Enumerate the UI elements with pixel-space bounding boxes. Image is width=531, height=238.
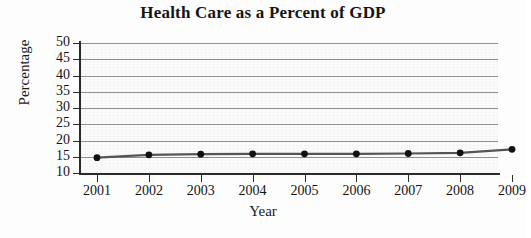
data-point [249, 150, 256, 157]
x-tick-label: 2002 [126, 183, 172, 199]
y-tick [73, 92, 80, 93]
x-tick-label: 2006 [333, 183, 379, 199]
x-tick-label: 2008 [437, 183, 483, 199]
data-point [94, 154, 101, 161]
y-axis-title: Percentage [16, 18, 33, 128]
data-point [509, 146, 516, 153]
x-tick [253, 175, 254, 182]
y-tick-label: 15 [44, 148, 70, 164]
data-point [457, 149, 464, 156]
x-tick [305, 175, 306, 182]
data-point [145, 151, 152, 158]
y-tick [73, 108, 80, 109]
x-tick [460, 175, 461, 182]
y-tick [73, 43, 80, 44]
data-point [197, 151, 204, 158]
data-point [353, 150, 360, 157]
x-tick [201, 175, 202, 182]
y-tick [73, 76, 80, 77]
y-tick [73, 59, 80, 60]
data-point [301, 150, 308, 157]
x-tick-label: 2003 [178, 183, 224, 199]
x-tick [97, 175, 98, 182]
x-tick [512, 175, 513, 182]
y-tick [73, 173, 80, 174]
y-tick-label: 35 [44, 83, 70, 99]
x-tick [356, 175, 357, 182]
y-tick-label: 50 [44, 34, 70, 50]
data-series [81, 43, 498, 173]
y-tick-label: 25 [44, 115, 70, 131]
y-tick [73, 141, 80, 142]
data-point [405, 150, 412, 157]
y-tick-label: 20 [44, 132, 70, 148]
y-tick-label: 40 [44, 67, 70, 83]
y-tick [73, 157, 80, 158]
x-tick-label: 2001 [74, 183, 120, 199]
x-tick-label: 2004 [230, 183, 276, 199]
x-axis-line [79, 173, 500, 175]
chart-title: Health Care as a Percent of GDP [0, 3, 526, 23]
y-tick-label: 45 [44, 50, 70, 66]
y-tick [73, 124, 80, 125]
x-tick-label: 2005 [282, 183, 328, 199]
x-tick-label: 2007 [385, 183, 431, 199]
x-tick [408, 175, 409, 182]
x-tick [149, 175, 150, 182]
x-tick-label: 2009 [489, 183, 531, 199]
y-tick-label: 30 [44, 99, 70, 115]
x-axis-title: Year [0, 203, 526, 220]
y-tick-label: 10 [44, 164, 70, 180]
